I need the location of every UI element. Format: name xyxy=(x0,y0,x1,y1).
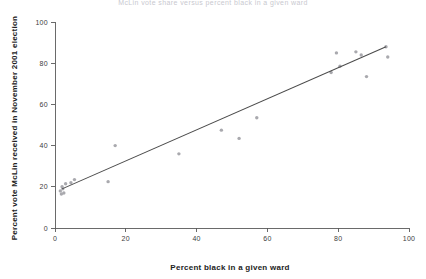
data-point xyxy=(73,178,76,181)
y-tick-label: 40 xyxy=(40,142,48,149)
data-point xyxy=(220,128,223,131)
x-tick-label: 40 xyxy=(192,235,200,242)
x-tick-label: 0 xyxy=(53,235,57,242)
y-tick-label: 100 xyxy=(35,19,48,26)
y-axis-ticks: 020406080100 xyxy=(35,19,55,232)
data-point xyxy=(64,182,67,185)
y-axis-label: Percent vote McLin received in November … xyxy=(10,16,19,240)
data-point xyxy=(365,75,368,78)
data-point xyxy=(69,181,72,184)
figure-title: McLin vote share versus percent black in… xyxy=(118,0,308,7)
data-points-layer xyxy=(59,45,390,196)
regression-line xyxy=(62,47,386,189)
data-point xyxy=(354,50,357,53)
data-point xyxy=(335,51,338,54)
x-axis-label: Percent black in a given ward xyxy=(170,263,289,272)
data-point xyxy=(177,152,180,155)
y-tick-label: 80 xyxy=(40,60,48,67)
data-point xyxy=(113,144,116,147)
data-point xyxy=(386,55,389,58)
data-point xyxy=(237,137,240,140)
data-point xyxy=(62,191,65,194)
x-tick-label: 60 xyxy=(263,235,271,242)
plot-canvas: McLin vote share versus percent black in… xyxy=(0,0,426,279)
y-tick-label: 60 xyxy=(40,101,48,108)
data-point xyxy=(360,53,363,56)
x-axis-ticks: 020406080100 xyxy=(53,228,415,242)
data-point xyxy=(106,180,109,183)
x-tick-label: 20 xyxy=(122,235,130,242)
data-point xyxy=(255,116,258,119)
scatter-plot-figure: McLin vote share versus percent black in… xyxy=(0,0,426,279)
y-tick-label: 0 xyxy=(44,225,48,232)
x-tick-label: 80 xyxy=(334,235,342,242)
y-tick-label: 20 xyxy=(40,183,48,190)
x-tick-label: 100 xyxy=(403,235,416,242)
